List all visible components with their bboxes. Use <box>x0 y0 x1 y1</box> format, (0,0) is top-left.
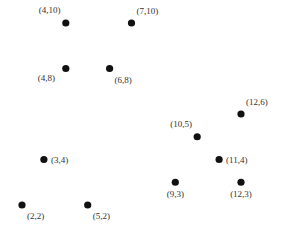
data-label: (12,3) <box>230 189 252 199</box>
scatter-plot: (4,10)(7,10)(4,8)(6,8)(3,4)(2,2)(5,2)(12… <box>0 0 288 236</box>
points-layer <box>18 19 244 208</box>
data-point <box>106 65 113 72</box>
data-label: (11,4) <box>226 155 247 165</box>
data-point <box>172 179 179 186</box>
data-point <box>237 110 244 117</box>
data-label: (4,8) <box>38 73 55 83</box>
data-point <box>62 65 69 72</box>
data-label: (10,5) <box>170 119 192 129</box>
data-label: (5,2) <box>93 211 110 221</box>
data-label: (6,8) <box>115 75 132 85</box>
data-point <box>40 156 47 163</box>
data-point <box>194 133 201 140</box>
data-point <box>237 179 244 186</box>
data-point <box>128 19 135 26</box>
data-label: (4,10) <box>39 5 61 15</box>
data-label: (2,2) <box>27 211 44 221</box>
data-point <box>62 19 69 26</box>
data-label: (9,3) <box>167 189 184 199</box>
labels-layer: (4,10)(7,10)(4,8)(6,8)(3,4)(2,2)(5,2)(12… <box>27 5 268 221</box>
data-label: (12,6) <box>246 97 268 107</box>
data-point <box>84 201 91 208</box>
data-label: (7,10) <box>137 6 159 16</box>
data-point <box>216 156 223 163</box>
data-point <box>18 201 25 208</box>
data-label: (3,4) <box>51 155 68 165</box>
